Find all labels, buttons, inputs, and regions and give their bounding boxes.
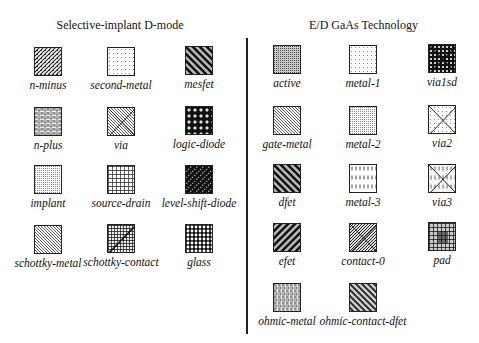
source-drain-swatch bbox=[107, 165, 135, 194]
ohmic-contact-dfet-swatch bbox=[349, 283, 377, 312]
dfet-swatch bbox=[273, 164, 301, 193]
n-plus-swatch bbox=[34, 107, 62, 136]
layer-via1sd: via1sd bbox=[387, 44, 479, 88]
metal-3-swatch bbox=[349, 164, 377, 193]
metal-2-swatch bbox=[349, 106, 377, 135]
layer-via2: via2 bbox=[387, 105, 479, 149]
pad-swatch bbox=[428, 222, 456, 251]
section-title-ed-gaas: E/D GaAs Technology bbox=[248, 18, 479, 33]
via1sd-swatch bbox=[428, 44, 456, 73]
layer-label: via1sd bbox=[387, 76, 479, 88]
metal-1-swatch bbox=[349, 45, 377, 74]
efet-swatch bbox=[273, 223, 301, 252]
contact-0-swatch bbox=[349, 223, 377, 252]
second-metal-swatch bbox=[107, 47, 135, 76]
schottky-contact-swatch bbox=[107, 224, 135, 253]
level-shift-diode-swatch bbox=[185, 165, 213, 194]
ohmic-metal-swatch bbox=[273, 283, 301, 312]
section-title-selective-implant: Selective-implant D-mode bbox=[0, 18, 240, 33]
layer-via3: via3 bbox=[387, 164, 479, 208]
active-swatch bbox=[273, 45, 301, 74]
gate-metal-swatch bbox=[273, 106, 301, 135]
mesfet-swatch bbox=[185, 46, 213, 75]
layer-pad: pad bbox=[387, 222, 479, 266]
n-minus-swatch bbox=[34, 47, 62, 76]
implant-swatch bbox=[34, 165, 62, 194]
schottky-metal-swatch bbox=[34, 225, 62, 254]
via-swatch bbox=[107, 107, 135, 136]
layer-label: ohmic-contact-dfet bbox=[308, 315, 418, 327]
layer-label: via2 bbox=[387, 137, 479, 149]
via3-swatch bbox=[428, 164, 456, 193]
layer-label: pad bbox=[387, 254, 479, 266]
via2-swatch bbox=[428, 105, 456, 134]
layer-ohmic-contact-dfet: ohmic-contact-dfet bbox=[308, 283, 418, 327]
logic-diode-swatch bbox=[185, 106, 213, 135]
layer-label: via3 bbox=[387, 196, 479, 208]
glass-swatch bbox=[185, 224, 213, 253]
